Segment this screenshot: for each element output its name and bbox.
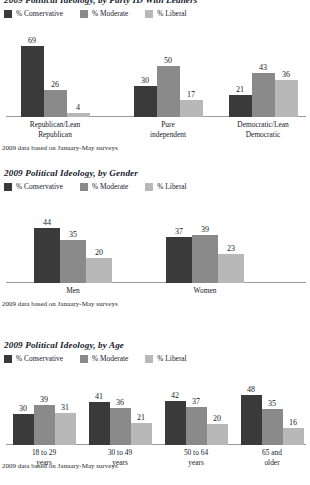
legend-label-moderate: % Moderate — [92, 354, 128, 363]
legend-swatch-moderate-icon — [80, 10, 88, 18]
bar-value-label: 50 — [164, 56, 172, 65]
bar-value-label: 21 — [137, 413, 145, 422]
legend-swatch-moderate-icon — [80, 355, 88, 363]
chart-legend-age: % Conservative % Moderate % Liberal — [0, 354, 310, 363]
category-label: Pure independent — [149, 117, 188, 139]
bar — [131, 423, 152, 445]
bar-group: 41362130 to 49 years — [86, 379, 154, 445]
legend-label-liberal: % Liberal — [157, 182, 186, 191]
bar-value-label: 35 — [69, 230, 77, 239]
chart-footnote-party: 2009 data based on January-May surveys — [0, 144, 310, 152]
chart-title-party: 2009 Political Ideology, by Party ID Wit… — [0, 0, 310, 5]
bar-item: 35 — [262, 409, 283, 445]
chart-title-age: 2009 Political Ideology, by Age — [0, 340, 310, 350]
bar-group: 305017Pure independent — [129, 31, 207, 117]
plot-area-gender: 443520Men373923Women — [0, 209, 310, 283]
legend-label-moderate: % Moderate — [92, 182, 128, 191]
category-label: 30 to 49 years — [103, 445, 137, 467]
bar-value-label: 69 — [28, 36, 36, 45]
bar — [283, 428, 304, 445]
bar — [166, 237, 192, 283]
bar-value-label: 26 — [51, 80, 59, 89]
legend-label-conservative: % Conservative — [16, 354, 63, 363]
bar — [34, 405, 55, 446]
bar-item: 39 — [192, 235, 218, 283]
bar — [89, 402, 110, 445]
bar-group: 69264Republican/Lean Republican — [16, 31, 94, 117]
bar — [241, 395, 262, 445]
bar-value-label: 30 — [19, 404, 27, 413]
bar-group: 373923Women — [160, 209, 250, 283]
bar-item: 48 — [241, 395, 262, 445]
bar-item: 16 — [283, 428, 304, 445]
bar-value-label: 20 — [95, 248, 103, 257]
bar-item: 31 — [55, 413, 76, 445]
legend-item-moderate: % Moderate — [80, 9, 128, 18]
bar — [110, 408, 131, 445]
bar — [165, 401, 186, 445]
chart-panel-age: 2009 Political Ideology, by Age % Conser… — [0, 340, 310, 470]
bar-item: 41 — [89, 402, 110, 445]
bar — [44, 90, 67, 117]
legend-label-conservative: % Conservative — [16, 182, 63, 191]
legend-item-conservative: % Conservative — [4, 9, 63, 18]
legend-swatch-liberal-icon — [145, 183, 153, 191]
category-label: 18 to 29 years — [27, 445, 61, 467]
chart-panel-gender: 2009 Political Ideology, by Gender % Con… — [0, 168, 310, 308]
bar — [275, 80, 298, 117]
bar-item: 30 — [13, 414, 34, 445]
bar-item: 20 — [207, 424, 228, 445]
category-label: Men — [66, 283, 80, 296]
bar-value-label: 43 — [259, 63, 267, 72]
bar-group: 214336Democratic/Lean Democratic — [224, 31, 302, 117]
bar — [60, 240, 86, 283]
chart-footnote-gender: 2009 data based on January-May surveys — [0, 300, 310, 308]
category-label: Democratic/Lean Democratic — [237, 117, 288, 139]
legend-item-conservative: % Conservative — [4, 354, 63, 363]
bar-item: 21 — [131, 423, 152, 445]
category-label: 50 to 64 years — [179, 445, 213, 467]
chart-title-gender: 2009 Political Ideology, by Gender — [0, 168, 310, 178]
bar-item: 35 — [60, 240, 86, 283]
category-label: Republican/Lean Republican — [30, 117, 80, 139]
category-label: Women — [194, 283, 217, 296]
bar — [207, 424, 228, 445]
bar-item: 20 — [86, 258, 112, 283]
bar — [13, 414, 34, 445]
bar-value-label: 23 — [227, 244, 235, 253]
legend-swatch-liberal-icon — [145, 10, 153, 18]
bar-value-label: 39 — [40, 395, 48, 404]
bar-item: 42 — [165, 401, 186, 445]
bar — [252, 73, 275, 117]
category-label: 65 and older — [255, 445, 289, 467]
bar-value-label: 20 — [213, 414, 221, 423]
bar — [192, 235, 218, 283]
bar-item: 17 — [180, 100, 203, 117]
legend-label-liberal: % Liberal — [157, 9, 186, 18]
legend-label-conservative: % Conservative — [16, 9, 63, 18]
chart-legend-party: % Conservative % Moderate % Liberal — [0, 9, 310, 18]
legend-item-liberal: % Liberal — [145, 354, 186, 363]
legend-item-conservative: % Conservative — [4, 182, 63, 191]
bar — [34, 228, 60, 283]
legend-label-liberal: % Liberal — [157, 354, 186, 363]
plot-area-age: 30393118 to 29 years41362130 to 49 years… — [0, 379, 310, 445]
bar-group: 443520Men — [28, 209, 118, 283]
bar-item: 50 — [157, 66, 180, 117]
bar — [86, 258, 112, 283]
bar-value-label: 37 — [192, 397, 200, 406]
bar-value-label: 16 — [289, 418, 297, 427]
legend-swatch-moderate-icon — [80, 183, 88, 191]
bar — [134, 86, 157, 117]
legend-swatch-conservative-icon — [4, 10, 12, 18]
bar-item: 26 — [44, 90, 67, 117]
bar-item: 43 — [252, 73, 275, 117]
bar-group: 48351665 and older — [238, 379, 306, 445]
bar-value-label: 41 — [95, 392, 103, 401]
bar-value-label: 21 — [236, 85, 244, 94]
bar-group: 30393118 to 29 years — [10, 379, 78, 445]
bar-value-label: 42 — [171, 391, 179, 400]
bar-item: 37 — [166, 237, 192, 283]
legend-swatch-conservative-icon — [4, 183, 12, 191]
legend-swatch-conservative-icon — [4, 355, 12, 363]
